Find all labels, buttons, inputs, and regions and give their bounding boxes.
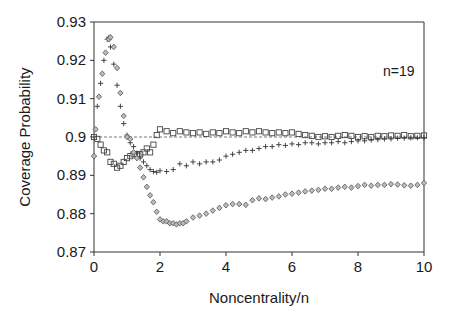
plus-marker-icon (237, 150, 242, 155)
plus-marker-icon (349, 139, 354, 144)
plus-marker-icon (98, 81, 103, 86)
square-marker-icon (362, 134, 367, 139)
square-marker-icon (309, 133, 314, 138)
x-axis-ticks: 0246810 (90, 252, 433, 275)
diamond-marker-icon (309, 188, 314, 194)
plus-marker-icon (421, 135, 426, 140)
series-diamonds (91, 35, 426, 228)
plus-marker-icon (223, 154, 228, 159)
square-marker-icon (124, 155, 129, 160)
plus-marker-icon (263, 144, 268, 149)
plus-marker-icon (230, 152, 235, 157)
diamond-marker-icon (362, 182, 367, 188)
plus-marker-icon (402, 136, 407, 141)
square-marker-icon (115, 165, 120, 170)
square-marker-icon (250, 130, 255, 135)
diamond-marker-icon (408, 183, 413, 189)
plus-marker-icon (121, 121, 126, 126)
square-marker-icon (111, 161, 116, 166)
plus-marker-icon (190, 159, 195, 164)
diamond-marker-icon (134, 155, 139, 161)
diamond-marker-icon (375, 182, 380, 188)
diamond-marker-icon (303, 189, 308, 195)
square-marker-icon (270, 131, 275, 136)
square-marker-icon (108, 159, 113, 164)
y-tick-label: 0.88 (57, 205, 86, 222)
diamond-marker-icon (336, 185, 341, 191)
diamond-marker-icon (283, 192, 288, 198)
diamond-marker-icon (243, 202, 248, 208)
plus-marker-icon (164, 169, 169, 174)
square-marker-icon (322, 134, 327, 139)
square-marker-icon (210, 130, 215, 135)
x-tick-label: 8 (354, 258, 362, 275)
square-marker-icon (98, 142, 103, 147)
diamond-marker-icon (402, 183, 407, 189)
diamond-marker-icon (421, 180, 426, 186)
square-marker-icon (336, 133, 341, 138)
diamond-marker-icon (131, 150, 136, 156)
plus-marker-icon (395, 136, 400, 141)
plus-marker-icon (101, 58, 106, 63)
x-tick-label: 10 (416, 258, 433, 275)
square-marker-icon (283, 131, 288, 136)
square-marker-icon (184, 130, 189, 135)
x-axis-title: Noncentrality/n (209, 289, 309, 306)
square-marker-icon (243, 129, 248, 134)
diamond-marker-icon (256, 196, 261, 202)
diamond-marker-icon (349, 185, 354, 191)
diamond-marker-icon (210, 208, 215, 214)
plus-marker-icon (171, 167, 176, 172)
square-marker-icon (296, 131, 301, 136)
y-tick-label: 0.89 (57, 166, 86, 183)
plus-marker-icon (296, 142, 301, 147)
y-tick-label: 0.9 (65, 128, 86, 145)
diamond-marker-icon (296, 190, 301, 196)
diamond-marker-icon (388, 181, 393, 187)
plus-marker-icon (355, 138, 360, 143)
square-marker-icon (148, 150, 153, 155)
plus-marker-icon (342, 140, 347, 145)
plus-marker-icon (177, 161, 182, 166)
diamond-marker-icon (144, 184, 149, 190)
x-tick-label: 2 (156, 258, 164, 275)
diamond-marker-icon (395, 182, 400, 188)
square-marker-icon (177, 129, 182, 134)
diamond-marker-icon (111, 44, 116, 50)
plus-marker-icon (270, 144, 275, 149)
diamond-marker-icon (115, 65, 120, 71)
plus-marker-icon (243, 148, 248, 153)
square-marker-icon (190, 131, 195, 136)
plus-marker-icon (369, 137, 374, 142)
square-marker-icon (144, 146, 149, 151)
square-marker-icon (101, 148, 106, 153)
plus-marker-icon (256, 146, 261, 151)
plus-marker-icon (141, 159, 146, 164)
plus-marker-icon (329, 140, 334, 145)
diamond-marker-icon (270, 195, 275, 201)
diamond-marker-icon (204, 211, 209, 217)
plus-marker-icon (415, 135, 420, 140)
diamond-marker-icon (342, 184, 347, 190)
plus-marker-icon (217, 157, 222, 162)
x-tick-label: 0 (90, 258, 98, 275)
plus-marker-icon (289, 141, 294, 146)
diamond-marker-icon (100, 71, 105, 77)
diamond-marker-icon (223, 202, 228, 208)
diamond-marker-icon (322, 186, 327, 192)
square-marker-icon (276, 130, 281, 135)
diamond-marker-icon (382, 182, 387, 188)
plus-marker-icon (336, 139, 341, 144)
diamond-marker-icon (151, 199, 156, 205)
square-marker-icon (289, 130, 294, 135)
diamond-marker-icon (289, 191, 294, 197)
diamond-marker-icon (91, 153, 96, 159)
coverage-probability-chart: 0246810 0.870.880.890.90.910.920.93 Nonc… (0, 0, 449, 321)
y-axis-title: Coverage Probability (16, 67, 33, 207)
square-marker-icon (223, 129, 228, 134)
plus-marker-icon (316, 141, 321, 146)
y-axis-ticks: 0.870.880.890.90.910.920.93 (57, 13, 94, 260)
x-tick-label: 6 (288, 258, 296, 275)
diamond-marker-icon (369, 183, 374, 189)
diamond-marker-icon (141, 174, 146, 180)
